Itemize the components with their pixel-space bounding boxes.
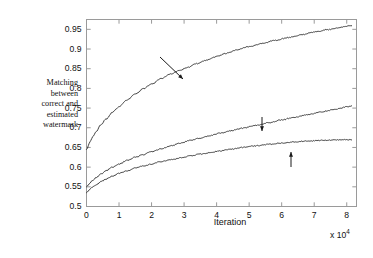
caption-strip (0, 244, 373, 258)
figure-container: Matching between correct and estimated w… (0, 0, 373, 258)
plot-svg (0, 0, 373, 258)
